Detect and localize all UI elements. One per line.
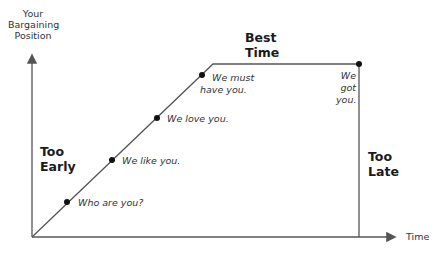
point-we-love-you [154,115,160,121]
phase-too-early: Too Early [40,144,76,174]
y-axis-title: Your Bargaining Position [8,8,58,41]
label-we-got-you: Wegotyou. [336,70,356,106]
point-who-are-you [64,199,70,205]
y-axis-title-line1: Your [8,8,58,19]
phase-best-time: Best Time [245,30,279,60]
phase-too-late-line2: Late [368,164,399,179]
label-we-must-have-you: We musthave you. [200,72,260,96]
y-axis-title-line3: Position [8,30,58,41]
phase-too-early-line1: Too [40,144,76,159]
point-we-like-you [109,157,115,163]
x-axis-title: Time [406,231,429,242]
phase-too-late: Too Late [368,149,399,179]
label-we-love-you: We love you. [167,113,229,125]
point-we-got-you [356,61,362,67]
diagram-lines [0,0,437,257]
bargaining-curve [32,64,359,237]
phase-best-time-line1: Best [245,30,279,45]
label-who-are-you: Who are you? [78,197,143,209]
phase-too-late-line1: Too [368,149,399,164]
phase-too-early-line2: Early [40,159,76,174]
y-axis-title-line2: Bargaining [8,19,58,30]
bargaining-position-diagram: Your Bargaining Position Time Too Early … [0,0,437,257]
label-we-like-you: We like you. [122,155,180,167]
phase-best-time-line2: Time [245,45,279,60]
